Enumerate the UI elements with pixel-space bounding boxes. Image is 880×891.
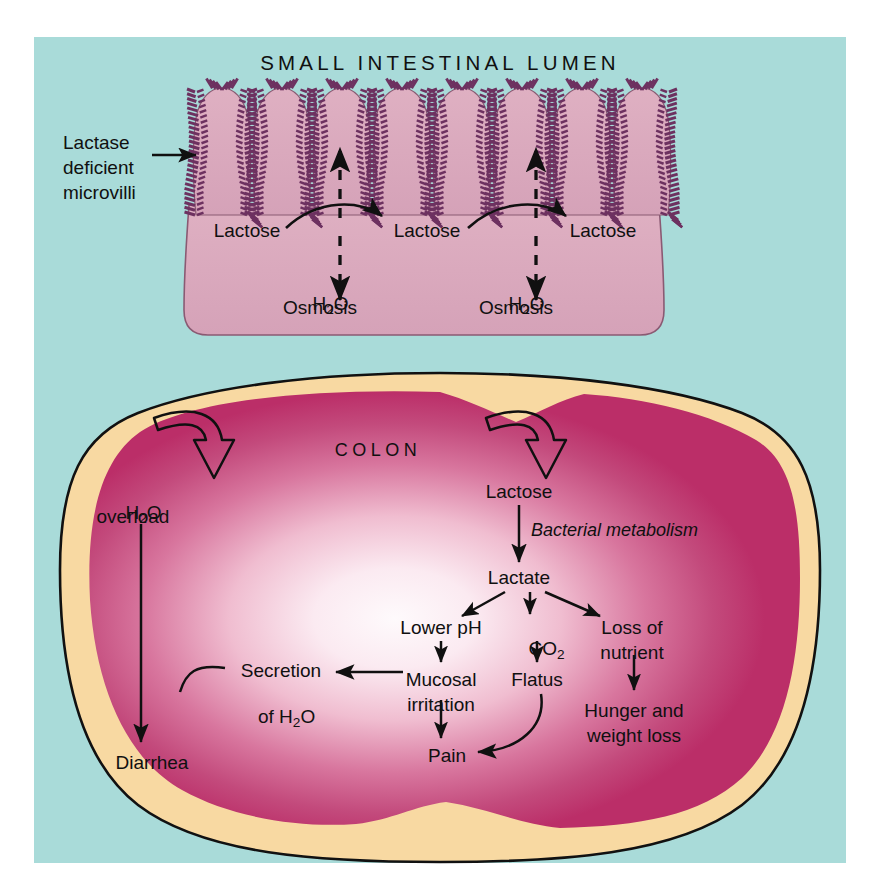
microvillus-mark: [185, 188, 196, 191]
node-pain: Pain: [428, 745, 466, 766]
page-title: SMALL INTESTINAL LUMEN: [260, 52, 620, 75]
microvillus-mark-inner: [318, 95, 325, 97]
microvillus-mark-inner: [660, 95, 667, 97]
figure-lactose-intolerance: SMALL INTESTINAL LUMEN Lactase deficient…: [0, 0, 880, 891]
microvillus-mark: [187, 103, 197, 106]
node-loss-of-nutrient-line1: Loss of: [601, 617, 662, 638]
node-mucosal-line1: Mucosal: [406, 669, 477, 690]
microvillus-mark-inner: [317, 90, 324, 92]
node-lactose-colon: Lactose: [486, 481, 553, 502]
microvillus-mark: [669, 188, 680, 191]
microvillus-mark: [185, 198, 196, 201]
microvillus-mark-inner: [240, 95, 247, 97]
microvilli-annotation-line1: Lactase: [63, 132, 130, 153]
microvillus-mark-inner: [241, 90, 248, 92]
node-hunger-line1: Hunger and: [584, 700, 683, 721]
microvillus-mark-inner: [361, 90, 368, 92]
microvillus-mark-inner: [300, 95, 307, 97]
microvillus-mark-inner: [617, 90, 624, 92]
microvillus-mark-inner: [558, 95, 565, 97]
microvillus-mark: [668, 94, 677, 97]
small-intestine-group: [152, 78, 682, 335]
microvillus-mark-inner: [618, 95, 625, 97]
microvillus-mark: [185, 203, 196, 206]
microvillus-mark-inner: [540, 95, 547, 97]
node-secretion-line2: of H2O: [237, 685, 315, 752]
microvillus-mark-inner: [498, 95, 505, 97]
microvillus-mark-inner: [378, 95, 385, 97]
microvillus-mark-inner: [420, 95, 427, 97]
microvillus-mark-inner: [480, 95, 487, 97]
microvilli-brush-border: [185, 78, 683, 227]
node-hunger-line2: weight loss: [587, 725, 681, 746]
microvillus-mark: [669, 203, 680, 206]
microvillus-mark-inner: [421, 90, 428, 92]
microvillus-mark: [667, 103, 677, 106]
microvillus-mark: [187, 98, 196, 101]
microvillus-mark-inner: [557, 90, 564, 92]
microvillus-mark-inner: [360, 95, 367, 97]
microvillus-mark: [669, 193, 680, 196]
microvillus-mark: [187, 89, 195, 92]
node-bacterial-metabolism: Bacterial metabolism: [531, 520, 698, 540]
microvillus-mark: [185, 193, 196, 196]
microvillus-mark: [187, 94, 196, 97]
node-lower-ph: Lower pH: [400, 617, 481, 638]
lactose-label-3: Lactose: [570, 220, 637, 241]
node-flatus: Flatus: [511, 669, 563, 690]
microvillus-mark-inner: [601, 90, 608, 92]
node-secretion-line1: Secretion: [241, 660, 321, 681]
microvilli-annotation-line3: microvilli: [63, 182, 136, 203]
microvillus-mark-inner: [198, 95, 205, 97]
osmosis-caption-left: Osmosis: [283, 297, 357, 318]
lactose-label-1: Lactose: [214, 220, 281, 241]
microvillus-mark-inner: [438, 95, 445, 97]
microvillus-mark-inner: [257, 90, 264, 92]
microvillus-mark: [669, 198, 680, 201]
microvillus-mark-inner: [661, 90, 668, 92]
microvillus-mark: [669, 207, 680, 210]
lactose-label-2: Lactose: [394, 220, 461, 241]
node-h2o-overload-line2: overload: [97, 506, 170, 527]
node-mucosal-line2: irritation: [407, 694, 475, 715]
microvillus-mark: [666, 108, 676, 111]
microvillus-mark-inner: [541, 90, 548, 92]
microvillus-mark-inner: [197, 90, 204, 92]
microvillus-mark-inner: [481, 90, 488, 92]
microvillus-mark-inner: [437, 90, 444, 92]
microvillus-mark: [669, 89, 677, 92]
node-loss-of-nutrient-line2: nutrient: [600, 642, 663, 663]
microvillus-mark: [187, 108, 197, 111]
microvilli-annotation-line2: deficient: [63, 157, 134, 178]
microvillus-mark-inner: [600, 95, 607, 97]
node-lactate: Lactate: [488, 567, 550, 588]
microvillus-mark-inner: [301, 90, 308, 92]
node-diarrhea: Diarrhea: [116, 752, 189, 773]
microvillus-mark-inner: [258, 95, 265, 97]
colon-title: COLON: [335, 440, 422, 460]
microvillus-mark: [668, 98, 677, 101]
osmosis-caption-right: Osmosis: [479, 297, 553, 318]
microvillus-mark-inner: [497, 90, 504, 92]
microvillus-mark-inner: [377, 90, 384, 92]
